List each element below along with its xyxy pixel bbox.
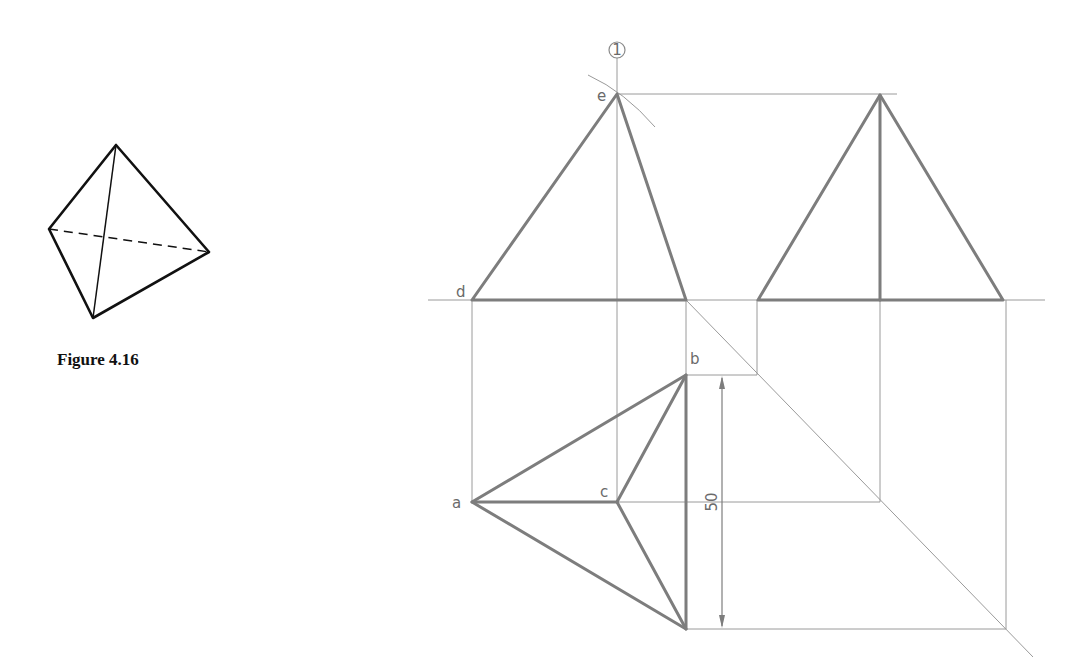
label-d: d: [456, 283, 466, 301]
drawing-canvas: 1 50 e d b a c: [0, 0, 1085, 660]
mitre-line: [686, 300, 1033, 657]
label-b: b: [690, 350, 700, 368]
front-elevation: [472, 94, 686, 300]
construction-lines: [428, 58, 1045, 657]
reference-number: 1: [612, 41, 622, 59]
dimension-label: 50: [703, 492, 721, 511]
figure-caption: Figure 4.16: [57, 350, 139, 370]
label-a: a: [452, 494, 461, 512]
pictorial-tetrahedron: [49, 145, 209, 318]
dimension-50: 50: [703, 376, 725, 628]
label-c: c: [600, 483, 608, 501]
side-elevation: [758, 95, 1003, 300]
reference-marker: 1: [609, 41, 625, 59]
label-e: e: [597, 87, 606, 105]
